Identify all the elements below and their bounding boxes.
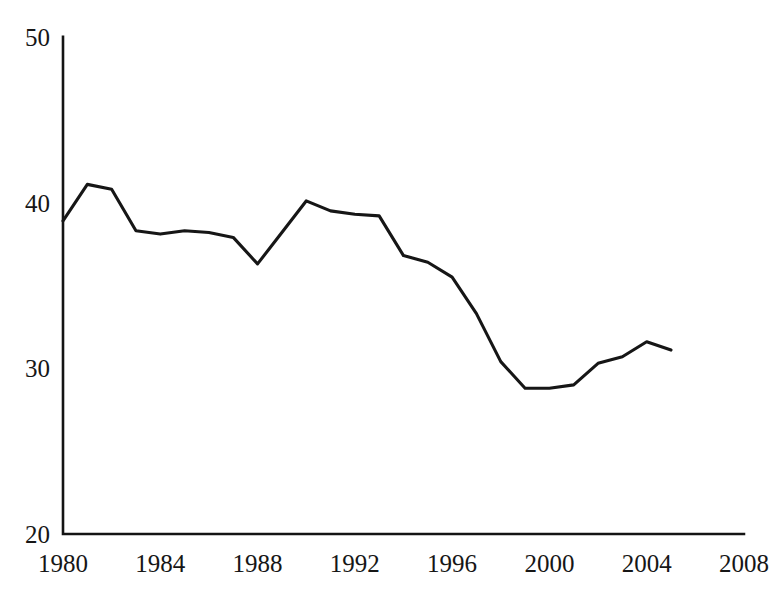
- series-group: [63, 184, 671, 388]
- y-tick-label: 50: [25, 24, 50, 51]
- y-tick-label: 20: [25, 521, 50, 548]
- x-axis-tick-labels: 19801984198819921996200020042008: [38, 550, 769, 577]
- x-tick-label: 1984: [135, 550, 186, 577]
- y-axis-tick-labels: 20304050: [25, 24, 50, 548]
- y-tick-label: 40: [25, 190, 50, 217]
- x-tick-label: 2000: [524, 550, 574, 577]
- line-chart: 20304050 1980198419881992199620002004200…: [0, 0, 782, 616]
- x-tick-label: 1992: [330, 550, 380, 577]
- x-tick-label: 1980: [38, 550, 88, 577]
- x-tick-label: 2004: [622, 550, 673, 577]
- chart-axes: [63, 37, 744, 534]
- x-tick-label: 1996: [427, 550, 477, 577]
- data-series-line: [63, 184, 671, 388]
- x-tick-label: 2008: [719, 550, 769, 577]
- chart-canvas: 20304050 1980198419881992199620002004200…: [0, 0, 782, 616]
- axes-group: [63, 37, 744, 534]
- x-tick-label: 1988: [233, 550, 283, 577]
- y-tick-label: 30: [25, 355, 50, 382]
